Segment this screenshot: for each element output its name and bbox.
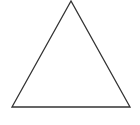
diagram-canvas xyxy=(0,0,140,125)
triangle xyxy=(12,1,130,107)
